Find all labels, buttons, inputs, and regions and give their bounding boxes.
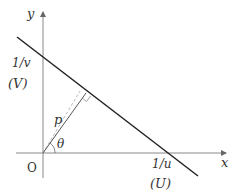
y-intercept-label: 1/v [12, 56, 31, 70]
normal-form-line-diagram: y x O 1/v (V) 1/u (U) p θ [0, 0, 238, 195]
y-axis-label: y [26, 6, 35, 21]
x-intercept-label: 1/u [152, 157, 171, 171]
x-axis-label: x [221, 155, 229, 170]
x-intercept-sublabel: (U) [150, 176, 171, 191]
main-line [17, 37, 198, 176]
angle-label-theta: θ [57, 137, 65, 151]
y-intercept-sublabel: (V) [8, 76, 28, 91]
perpendicular-label-p: p [54, 112, 63, 127]
theta-arc [50, 143, 55, 153]
origin-label: O [27, 161, 37, 175]
perpendicular-p [43, 93, 86, 153]
